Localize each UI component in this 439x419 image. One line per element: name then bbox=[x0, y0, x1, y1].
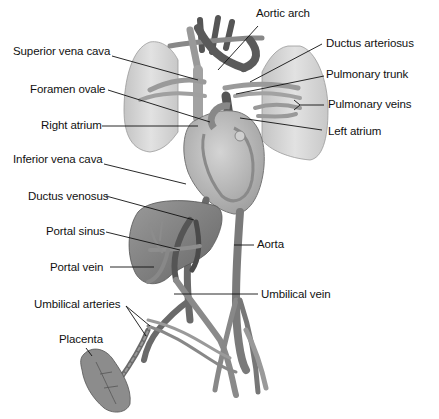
fetal-circulation-diagram bbox=[0, 0, 439, 419]
label-ductus-arteriosus: Ductus arteriosus bbox=[326, 37, 414, 50]
label-portal-vein: Portal vein bbox=[50, 261, 103, 274]
label-right-atrium: Right atrium bbox=[41, 119, 102, 132]
label-ductus-venosus: Ductus venosus bbox=[28, 190, 108, 203]
placenta bbox=[81, 349, 131, 412]
label-left-atrium: Left atrium bbox=[328, 125, 381, 138]
label-pulmonary-trunk: Pulmonary trunk bbox=[326, 68, 408, 81]
heart bbox=[184, 106, 264, 214]
label-placenta: Placenta bbox=[59, 333, 103, 346]
lower-vessels bbox=[118, 280, 266, 395]
label-umbilical-arteries: Umbilical arteries bbox=[34, 298, 120, 311]
label-portal-sinus: Portal sinus bbox=[46, 225, 105, 238]
label-pulmonary-veins: Pulmonary veins bbox=[328, 98, 412, 111]
label-aortic-arch: Aortic arch bbox=[256, 7, 310, 20]
label-aorta: Aorta bbox=[257, 238, 284, 251]
label-umbilical-vein: Umbilical vein bbox=[261, 288, 331, 301]
label-inferior-vena-cava: Inferior vena cava bbox=[13, 153, 103, 166]
label-foramen-ovale: Foramen ovale bbox=[30, 83, 105, 96]
label-superior-vena-cava: Superior vena cava bbox=[13, 45, 110, 58]
